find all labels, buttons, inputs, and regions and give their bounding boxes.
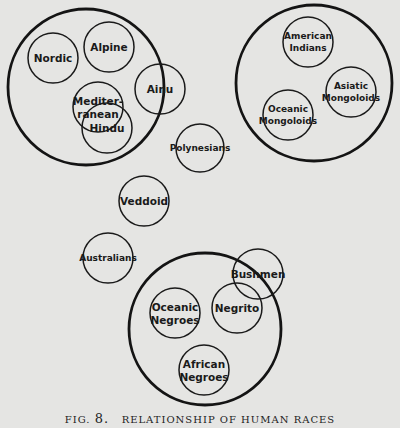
race-label: African (183, 358, 225, 370)
race-node-bushmen: Bushmen (231, 249, 286, 299)
race-label: Negroes (179, 371, 228, 383)
race-label: Bushmen (231, 268, 286, 280)
race-label: Asiatic (334, 81, 368, 91)
race-node-african-negroes: AfricanNegroes (179, 345, 229, 395)
figure-number: 8. (95, 411, 109, 426)
race-label: Ainu (147, 83, 174, 95)
race-circle (326, 67, 376, 117)
race-node-nordic: Nordic (28, 33, 78, 83)
race-circles: NordicAlpineMediter-raneanHinduAinuPolyn… (28, 17, 380, 395)
race-label: Oceanic (268, 104, 308, 114)
race-node-ainu: Ainu (135, 64, 185, 114)
race-label: Polynesians (170, 143, 231, 153)
race-label: Negroes (150, 314, 199, 326)
race-label: Indians (289, 43, 326, 53)
race-node-alpine: Alpine (84, 22, 134, 72)
race-circle (263, 90, 313, 140)
race-label: Veddoid (120, 195, 168, 207)
race-label: Australians (79, 253, 137, 263)
race-label: Alpine (90, 41, 127, 53)
race-circle (283, 17, 333, 67)
race-node-oceanic-negroes: OceanicNegroes (150, 288, 200, 338)
race-label: Hindu (90, 122, 125, 134)
race-label: Mongoloids (322, 93, 380, 103)
figure-title: RELATIONSHIP OF HUMAN RACES (122, 414, 336, 425)
figure-prefix: FIG. (65, 414, 91, 425)
race-label: Negrito (215, 302, 259, 314)
race-relationship-diagram: NordicAlpineMediter-raneanHinduAinuPolyn… (0, 0, 400, 428)
race-node-australians: Australians (79, 233, 137, 283)
race-label: Mongoloids (259, 116, 317, 126)
race-node-asiatic-mongoloids: AsiaticMongoloids (322, 67, 380, 117)
race-node-american-indians: AmericanIndians (283, 17, 333, 67)
race-node-negrito: Negrito (212, 283, 262, 333)
race-node-veddoid: Veddoid (119, 176, 169, 226)
race-node-polynesians: Polynesians (170, 124, 231, 172)
race-node-oceanic-mongoloids: OceanicMongoloids (259, 90, 317, 140)
race-label: American (284, 31, 332, 41)
figure-caption: FIG. 8. RELATIONSHIP OF HUMAN RACES (0, 411, 400, 426)
race-label: Oceanic (152, 301, 199, 313)
mongoloid-group-ring (236, 5, 392, 161)
race-label: Nordic (34, 52, 73, 64)
